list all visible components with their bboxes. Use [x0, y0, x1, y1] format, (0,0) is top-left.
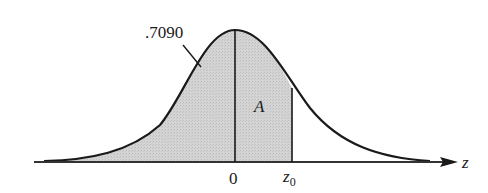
axis-label: z	[461, 153, 469, 172]
area-pointer-line	[183, 45, 201, 67]
shaded-area	[44, 30, 292, 162]
z0-label: z0	[282, 167, 296, 189]
normal-curve-diagram: .7090 A 0 z0 z	[0, 0, 488, 193]
origin-label: 0	[229, 169, 238, 188]
left-area-label: .7090	[145, 23, 183, 42]
region-a-label: A	[253, 97, 265, 116]
